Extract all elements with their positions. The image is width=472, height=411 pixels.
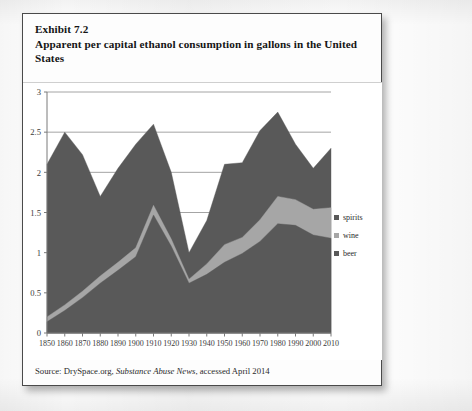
x-tick-label: 1940 xyxy=(199,339,215,348)
legend-swatch-icon xyxy=(334,251,339,256)
y-tick-label: 0 xyxy=(37,328,41,338)
x-tick-label: 1860 xyxy=(57,339,73,348)
y-tick-label: 2.5 xyxy=(30,127,41,137)
y-tick-labels-group: 00.511.522.53 xyxy=(30,87,41,338)
source-citation: Source: DrySpace.org, Substance Abuse Ne… xyxy=(35,366,270,376)
legend-label: beer xyxy=(343,249,357,258)
source-publication: Substance Abuse News xyxy=(116,366,195,376)
legend-swatch-icon xyxy=(334,215,339,220)
x-tick-label: 1970 xyxy=(252,339,268,348)
source-suffix: , accessed April 2014 xyxy=(195,366,269,376)
chart-panel: 00.511.522.53 18501860187018801890190019… xyxy=(23,82,382,360)
y-tick-label: 0.5 xyxy=(30,288,41,298)
x-tick-label: 1930 xyxy=(181,339,197,348)
x-tick-label: 1900 xyxy=(128,339,144,348)
area-series-group xyxy=(47,112,331,333)
y-tick-label: 1.5 xyxy=(30,208,41,218)
exhibit-title-line-2: States xyxy=(35,51,373,66)
x-tick-label: 2000 xyxy=(305,339,321,348)
x-tick-label: 1880 xyxy=(92,339,108,348)
x-tick-label: 1850 xyxy=(39,339,55,348)
x-tick-label: 1960 xyxy=(234,339,250,348)
x-tick-label: 1920 xyxy=(163,339,179,348)
x-tick-label: 1890 xyxy=(110,339,126,348)
legend-swatch-icon xyxy=(334,233,339,238)
legend-item-beer[interactable]: beer xyxy=(334,245,382,262)
chart-legend: spiritswinebeer xyxy=(334,209,382,263)
legend-item-spirits[interactable]: spirits xyxy=(334,209,382,226)
exhibit-box: Exhibit 7.2 Apparent per capital ethanol… xyxy=(22,13,382,386)
x-tick-label: 1980 xyxy=(270,339,286,348)
x-tick-label: 1950 xyxy=(217,339,233,348)
y-tick-label: 1 xyxy=(37,248,41,258)
exhibit-number: Exhibit 7.2 xyxy=(35,22,373,37)
legend-label: wine xyxy=(343,231,359,240)
y-tick-label: 2 xyxy=(37,168,41,178)
exhibit-title-line-1: Apparent per capital ethanol consumption… xyxy=(35,37,373,52)
legend-item-wine[interactable]: wine xyxy=(334,227,382,244)
stacked-area-chart: 00.511.522.53 18501860187018801890190019… xyxy=(23,83,382,360)
x-tick-label: 2010 xyxy=(323,339,339,348)
x-tick-label: 1990 xyxy=(288,339,304,348)
x-tick-labels-group: 1850186018701880189019001910192019301940… xyxy=(39,339,339,348)
exhibit-title-block: Exhibit 7.2 Apparent per capital ethanol… xyxy=(35,22,373,66)
x-tick-label: 1910 xyxy=(146,339,162,348)
source-prefix: Source: DrySpace.org, xyxy=(35,366,116,376)
x-tick-label: 1870 xyxy=(75,339,91,348)
y-tick-label: 3 xyxy=(37,87,41,97)
legend-label: spirits xyxy=(343,213,363,222)
